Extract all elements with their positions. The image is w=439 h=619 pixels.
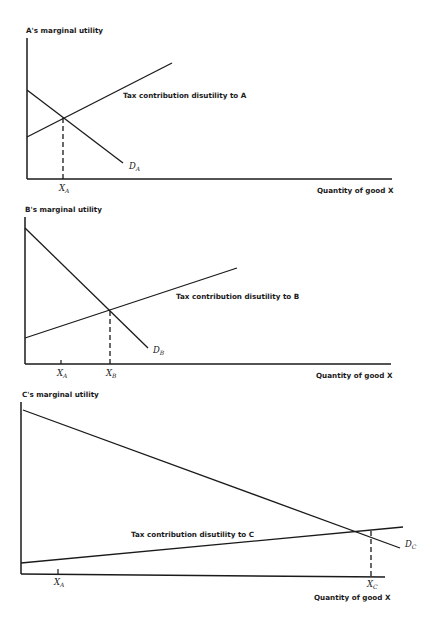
panel-b: B's marginal utility Tax contribution di… (25, 205, 393, 380)
panel-c-demand-label: DC (404, 539, 417, 550)
panel-c-xlabel: Quantity of good X (314, 593, 391, 602)
figure: A's marginal utility Tax contribution di… (0, 0, 439, 619)
panel-a-tax-label: Tax contribution disutility to A (123, 91, 247, 100)
panel-b-xb-marker: XB (105, 368, 117, 379)
panel-c: C's marginal utility Tax contribution di… (21, 390, 417, 602)
panel-a-tax-line (27, 63, 172, 137)
panel-b-ylabel: B's marginal utility (25, 205, 102, 214)
panel-a-ylabel: A's marginal utility (26, 26, 103, 35)
panel-a: A's marginal utility Tax contribution di… (26, 26, 394, 195)
panel-a-xa-marker: XA (58, 183, 70, 194)
panel-b-tax-label: Tax contribution disutility to B (176, 292, 299, 301)
panel-b-xa-marker: XA (56, 368, 68, 379)
panel-c-ylabel: C's marginal utility (22, 390, 99, 399)
panel-b-xlabel: Quantity of good X (316, 371, 393, 380)
panel-b-demand-label: DB (152, 345, 165, 356)
panel-c-xc-marker: XC (366, 579, 378, 590)
panel-c-demand-line (23, 410, 400, 548)
panel-a-xlabel: Quantity of good X (317, 186, 394, 195)
panel-c-tax-label: Tax contribution disutility to C (131, 530, 254, 539)
panel-c-x-axis (21, 574, 385, 577)
panel-c-xa-marker: XA (53, 577, 65, 588)
panel-a-demand-line (27, 90, 123, 163)
panel-b-tax-line (25, 268, 237, 338)
panel-a-demand-label: DA (128, 161, 141, 172)
panel-b-demand-line (25, 228, 148, 348)
